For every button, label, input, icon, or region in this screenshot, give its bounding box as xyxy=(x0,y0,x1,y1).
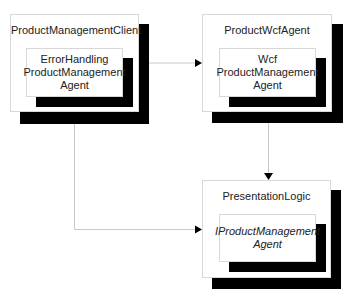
inner-component-box[interactable]: IProductManagement Agent xyxy=(219,214,316,262)
component-title: ProductManagementClient xyxy=(11,24,138,36)
component-title: PresentationLogic xyxy=(203,190,330,202)
connector-client-to-wcf xyxy=(149,59,202,67)
inner-component-box[interactable]: Wcf ProductManagement Agent xyxy=(219,48,316,97)
arrowhead-icon xyxy=(264,173,273,180)
arrowhead-icon xyxy=(195,59,202,67)
arrowhead-icon xyxy=(195,226,202,234)
inner-component-label: Wcf ProductManagement Agent xyxy=(220,49,315,96)
connector-wcf-to-presentation xyxy=(264,123,273,180)
inner-component-label: IProductManagement Agent xyxy=(220,215,315,261)
inner-component-box[interactable]: ErrorHandling ProductManagement Agent xyxy=(26,48,123,97)
inner-component-label: ErrorHandling ProductManagement Agent xyxy=(27,49,122,96)
component-title: ProductWcfAgent xyxy=(203,24,331,36)
connector-client-to-presentation xyxy=(75,124,203,234)
